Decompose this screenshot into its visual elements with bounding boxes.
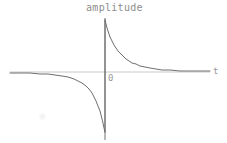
- chart-title: amplitude: [86, 3, 143, 13]
- positive-branch-curve: [105, 20, 210, 71]
- origin-label: 0: [108, 74, 113, 83]
- amplitude-impulse-figure: amplitude 0 t: [0, 0, 227, 143]
- negative-branch-curve: [10, 73, 105, 132]
- t-axis-label: t: [213, 67, 218, 76]
- plot-canvas: [0, 0, 227, 143]
